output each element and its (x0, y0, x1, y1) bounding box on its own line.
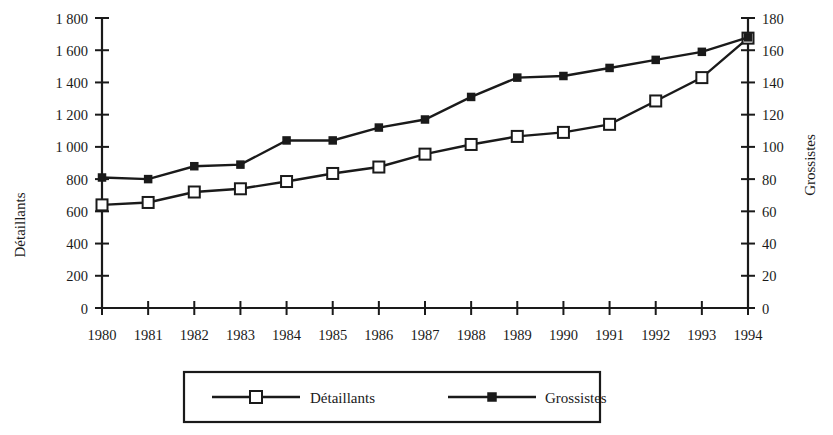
x-tick-label: 1987 (411, 327, 440, 343)
legend: DétaillantsGrossistes (184, 372, 607, 422)
data-point-marker (512, 131, 523, 142)
data-point-marker (283, 137, 290, 144)
data-point-marker (373, 162, 384, 173)
data-point-marker (422, 116, 429, 123)
x-tick-label: 1983 (226, 327, 255, 343)
x-tick-label: 1990 (549, 327, 578, 343)
data-point-marker (650, 95, 661, 106)
x-tick-label: 1991 (595, 327, 624, 343)
left-tick-label: 400 (66, 236, 88, 252)
right-axis-title: Grossistes (802, 134, 818, 196)
right-tick-label: 100 (762, 139, 784, 155)
data-point-marker (235, 183, 246, 194)
x-tick-label: 1994 (734, 327, 764, 343)
data-point-marker (745, 34, 752, 41)
data-point-marker (99, 174, 106, 181)
x-tick-label: 1988 (457, 327, 486, 343)
data-point-marker (560, 73, 567, 80)
left-tick-label: 1 600 (55, 43, 88, 59)
legend-marker-open-square (250, 391, 262, 403)
x-tick-label: 1992 (641, 327, 670, 343)
data-point-marker (420, 149, 431, 160)
legend-marker-filled-square (488, 393, 496, 401)
right-tick-label: 40 (762, 236, 777, 252)
data-point-marker (189, 187, 200, 198)
data-point-marker (514, 74, 521, 81)
data-point-marker (696, 72, 707, 83)
data-point-marker (97, 199, 108, 210)
left-tick-label: 1 200 (55, 107, 88, 123)
data-point-marker (329, 137, 336, 144)
left-tick-label: 200 (66, 268, 88, 284)
right-tick-label: 80 (762, 172, 777, 188)
right-tick-label: 140 (762, 75, 784, 91)
chart-background (0, 0, 833, 435)
data-point-marker (604, 119, 615, 130)
data-point-marker (558, 127, 569, 138)
left-tick-label: 600 (66, 204, 88, 220)
right-tick-label: 180 (762, 11, 784, 27)
x-tick-label: 1981 (134, 327, 163, 343)
left-tick-label: 800 (66, 172, 88, 188)
right-tick-label: 20 (762, 268, 777, 284)
left-tick-label: 1 000 (55, 139, 88, 155)
data-point-marker (468, 93, 475, 100)
data-point-marker (145, 176, 152, 183)
x-tick-label: 1989 (503, 327, 532, 343)
right-tick-label: 60 (762, 204, 777, 220)
x-tick-label: 1993 (687, 327, 716, 343)
right-tick-label: 160 (762, 43, 784, 59)
left-tick-label: 0 (81, 301, 88, 317)
left-axis-title: Détaillants (12, 192, 28, 257)
data-point-marker (143, 197, 154, 208)
left-tick-label: 1 400 (55, 75, 88, 91)
data-point-marker (281, 176, 292, 187)
left-tick-label: 1 800 (55, 11, 88, 27)
x-tick-label: 1980 (88, 327, 117, 343)
data-point-marker (698, 48, 705, 55)
legend-entry-label: Détaillants (310, 390, 375, 406)
x-tick-label: 1982 (180, 327, 209, 343)
line-chart-figure: Détaillants Grossistes 02004006008001 00… (0, 0, 833, 435)
x-tick-label: 1986 (364, 327, 393, 343)
right-tick-label: 120 (762, 107, 784, 123)
data-point-marker (191, 163, 198, 170)
data-point-marker (327, 168, 338, 179)
data-point-marker (237, 161, 244, 168)
data-point-marker (606, 64, 613, 71)
data-point-marker (375, 124, 382, 131)
right-tick-label: 0 (762, 301, 769, 317)
data-point-marker (466, 139, 477, 150)
x-tick-label: 1984 (272, 327, 302, 343)
x-tick-label: 1985 (318, 327, 347, 343)
data-point-marker (652, 56, 659, 63)
legend-entry-label: Grossistes (545, 390, 607, 406)
